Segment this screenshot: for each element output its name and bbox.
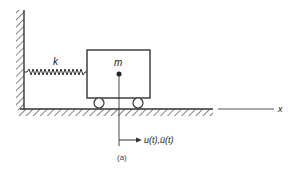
- spring-stiffness-label: k: [53, 56, 59, 67]
- response-label: u(t),ü(t): [144, 135, 174, 145]
- wheel-left: [94, 98, 104, 108]
- mass-label: m: [114, 57, 122, 68]
- spring: [24, 69, 87, 75]
- x-axis-label: x: [277, 104, 283, 114]
- fixed-wall: [16, 10, 24, 109]
- figure-caption: (a): [117, 153, 127, 162]
- displacement-arrow: [119, 138, 142, 143]
- ground: [18, 109, 213, 116]
- mass-spring-diagram: k m u(t),ü(t) x (a): [0, 0, 297, 176]
- wheel-right: [133, 98, 143, 108]
